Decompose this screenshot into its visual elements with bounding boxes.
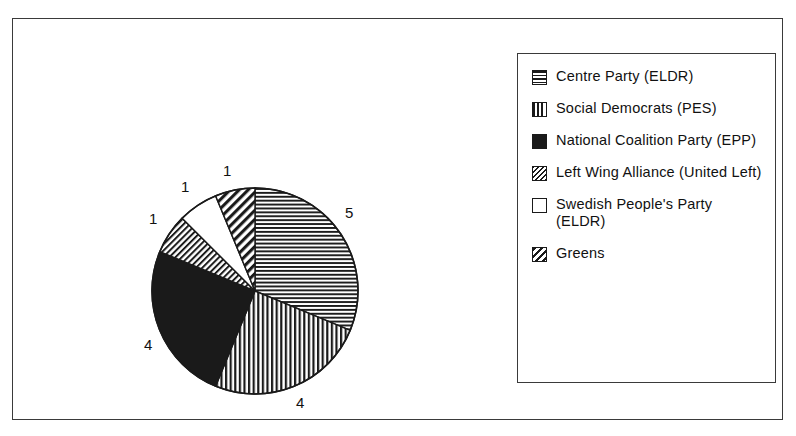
chart-legend: Centre Party (ELDR) Social Democrats (PE… [517, 53, 776, 383]
pie-slice-group [152, 188, 358, 394]
legend-label: Swedish People's Party (ELDR) [556, 196, 765, 230]
pie-slice-value-label: 4 [296, 395, 304, 410]
pie-slice-value-label: 1 [181, 179, 189, 194]
pie-slice-value-label: 4 [144, 337, 152, 352]
legend-swatch-white-icon [532, 198, 547, 213]
pie-slice-value-label: 1 [149, 211, 157, 226]
legend-item-greens[interactable]: Greens [532, 245, 765, 262]
legend-swatch-solid-black-icon [532, 134, 547, 149]
legend-item-national-coalition-party[interactable]: National Coalition Party (EPP) [532, 132, 765, 149]
legend-item-social-democrats[interactable]: Social Democrats (PES) [532, 100, 765, 117]
legend-label: Left Wing Alliance (United Left) [556, 164, 761, 181]
legend-item-centre-party[interactable]: Centre Party (ELDR) [532, 68, 765, 85]
pie-chart-svg [133, 149, 393, 429]
legend-item-left-wing-alliance[interactable]: Left Wing Alliance (United Left) [532, 164, 765, 181]
legend-swatch-diagonal-fine-icon [532, 166, 547, 181]
pie-slice-value-label: 1 [223, 163, 231, 178]
pie-chart: 544111 [133, 149, 393, 429]
legend-swatch-diagonal-coarse-icon [532, 247, 547, 262]
legend-label: Greens [556, 245, 605, 262]
pie-slice-value-label: 5 [345, 205, 353, 220]
legend-label: Centre Party (ELDR) [556, 68, 694, 85]
legend-label: National Coalition Party (EPP) [556, 132, 756, 149]
legend-swatch-horizontal-stripes-icon [532, 70, 547, 85]
legend-swatch-vertical-stripes-icon [532, 102, 547, 117]
legend-label: Social Democrats (PES) [556, 100, 717, 117]
legend-item-swedish-peoples-party[interactable]: Swedish People's Party (ELDR) [532, 196, 765, 230]
figure-frame: 544111 Centre Party (ELDR) Social Democr… [12, 18, 783, 420]
scan-artifact [0, 0, 796, 10]
